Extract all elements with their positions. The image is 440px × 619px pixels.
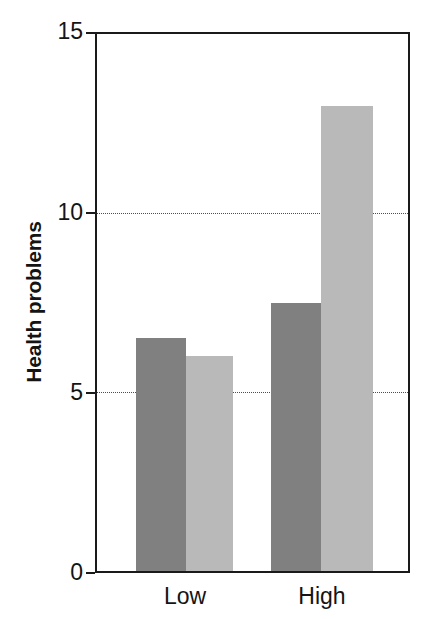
y-tick-label-0: 0 xyxy=(37,561,83,584)
y-tick-mark-0 xyxy=(86,572,95,574)
y-tick-mark-5 xyxy=(86,392,95,394)
x-tick-label-low: Low xyxy=(164,585,206,608)
y-axis-tick-labels: 15 10 5 0 xyxy=(28,0,83,619)
plot-area xyxy=(95,32,410,573)
bar-high-series-2 xyxy=(321,106,373,571)
bar-low-series-1 xyxy=(136,338,186,571)
x-tick-label-high: High xyxy=(298,585,345,608)
bar-chart-figure: Health problems 15 10 5 0 Low High xyxy=(0,0,440,619)
y-tick-label-5: 5 xyxy=(37,381,83,404)
y-tick-label-15: 15 xyxy=(37,20,83,43)
y-tick-label-10: 10 xyxy=(37,201,83,224)
bar-low-series-2 xyxy=(186,356,233,571)
y-tick-mark-10 xyxy=(86,212,95,214)
bar-high-series-1 xyxy=(271,303,321,572)
y-tick-mark-15 xyxy=(86,32,95,34)
